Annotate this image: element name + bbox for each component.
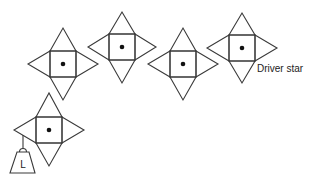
pivot-dot (181, 62, 186, 67)
star-3 (148, 28, 218, 100)
pivot-dot (61, 62, 66, 67)
star-5 (14, 93, 84, 166)
pivot-dot (120, 45, 125, 50)
pivot-dot (47, 128, 52, 133)
star-2 (88, 12, 156, 83)
pivot-dot (240, 46, 245, 51)
driver-star-label: Driver star (257, 63, 304, 74)
load-label: L (20, 159, 26, 170)
star-1 (28, 28, 98, 100)
star-diagram: Driver star L (0, 0, 309, 182)
